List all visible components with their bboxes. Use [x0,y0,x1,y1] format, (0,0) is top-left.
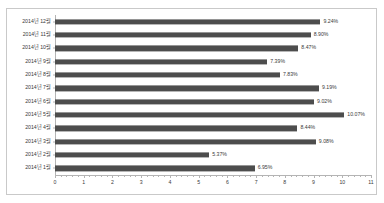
bar-row: 2014년 9월7.39% [55,55,371,68]
x-axis-minor-tick [325,175,326,177]
category-label: 2014년 4월 [25,126,51,131]
x-axis-minor-tick [107,175,108,177]
bar [55,19,320,24]
x-axis-minor-tick [222,175,223,177]
bar-row: 2014년 7월9.19% [55,82,371,95]
x-axis-tick-label: 2 [111,180,114,185]
x-axis-tick [84,175,85,178]
x-axis-tick [227,175,228,178]
bar-row: 2014년 8월7.83% [55,68,371,81]
x-axis-tick-label: 11 [368,180,373,185]
bar-row: 2014년 5월10.07% [55,108,371,121]
x-axis-minor-tick [193,175,194,177]
x-axis-tick-label: 5 [197,180,200,185]
x-axis-minor-tick [268,175,269,177]
x-axis-minor-tick [302,175,303,177]
x-axis-minor-tick [273,175,274,177]
x-axis-minor-tick [204,175,205,177]
x-axis-minor-tick [124,175,125,177]
bar-row: 2014년 11월8.90% [55,28,371,41]
bar [55,99,314,104]
x-axis-line [55,175,371,176]
x-axis-tick [199,175,200,178]
x-axis-minor-tick [187,175,188,177]
x-axis-minor-tick [331,175,332,177]
x-axis-tick [141,175,142,178]
x-axis-tick-label: 8 [283,180,286,185]
bar [55,59,267,64]
category-label: 2014년 11월 [23,32,51,37]
x-axis-minor-tick [296,175,297,177]
plot-area: 2014년 12월9.24%2014년 11월8.90%2014년 10월8.4… [55,15,371,175]
x-axis-minor-tick [118,175,119,177]
x-axis-minor-tick [239,175,240,177]
bar-row: 2014년 2월5.37% [55,148,371,161]
bar-row: 2014년 6월9.02% [55,95,371,108]
x-axis-tick-label: 10 [339,180,345,185]
x-axis-minor-tick [78,175,79,177]
bar [55,86,319,91]
x-axis-tick-label: 4 [168,180,171,185]
x-axis-minor-tick [135,175,136,177]
bar [55,72,280,77]
bar-row: 2014년 1월6.95% [55,162,371,175]
bar [55,139,316,144]
bar-row: 2014년 3월9.08% [55,135,371,148]
x-axis-minor-tick [308,175,309,177]
category-label: 2014년 2월 [25,152,51,157]
x-axis-minor-tick [101,175,102,177]
x-axis-minor-tick [360,175,361,177]
category-label: 2014년 12월 [22,19,51,24]
x-axis-tick [256,175,257,178]
category-label: 2014년 6월 [25,99,51,104]
x-axis-tick [55,175,56,178]
x-axis-minor-tick [181,175,182,177]
category-label: 2014년 3월 [25,139,51,144]
x-axis-minor-tick [147,175,148,177]
bar-value-label: 6.95% [258,166,273,171]
x-axis-minor-tick [291,175,292,177]
bar [55,126,297,131]
x-axis-minor-tick [72,175,73,177]
x-axis-tick-label: 9 [312,180,315,185]
bar-value-label: 8.90% [314,32,329,37]
bar-value-label: 7.39% [270,59,285,64]
x-axis-minor-tick [245,175,246,177]
x-axis-minor-tick [233,175,234,177]
x-axis-minor-tick [354,175,355,177]
bar-value-label: 5.37% [212,152,227,157]
x-axis-minor-tick [262,175,263,177]
x-axis-minor-tick [61,175,62,177]
x-axis-tick [285,175,286,178]
x-axis-minor-tick [158,175,159,177]
x-axis-tick [112,175,113,178]
bar [55,32,311,37]
category-label: 2014년 5월 [25,112,51,117]
x-axis-tick [170,175,171,178]
bar-value-label: 10.07% [347,112,365,117]
x-axis-minor-tick [279,175,280,177]
x-axis-minor-tick [250,175,251,177]
bar-value-label: 9.02% [317,99,332,104]
bar [55,166,255,171]
bar-row: 2014년 10월8.47% [55,42,371,55]
bar [55,112,344,117]
x-axis-tick-label: 3 [140,180,143,185]
x-axis-minor-tick [365,175,366,177]
bar-value-label: 8.44% [300,126,315,131]
category-label: 2014년 8월 [25,72,51,77]
x-axis-minor-tick [164,175,165,177]
x-axis-tick-label: 1 [82,180,85,185]
chart-frame: 2014년 12월9.24%2014년 11월8.90%2014년 10월8.4… [6,8,377,195]
x-axis-minor-tick [210,175,211,177]
bar-value-label: 9.19% [322,86,337,91]
bar [55,152,209,157]
category-label: 2014년 1월 [25,166,51,171]
bar-row: 2014년 12월9.24% [55,15,371,28]
x-axis-minor-tick [153,175,154,177]
x-axis-minor-tick [216,175,217,177]
bar [55,46,298,51]
x-axis-tick [342,175,343,178]
bar-value-label: 9.08% [319,139,334,144]
x-axis-minor-tick [66,175,67,177]
